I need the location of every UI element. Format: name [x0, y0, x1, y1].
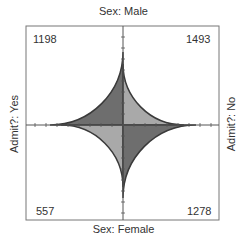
label-admit-no: Admit?: No — [225, 74, 237, 174]
label-sex-female: Sex: Female — [0, 223, 247, 235]
quadrant-bottom-left — [61, 125, 123, 187]
quadrant-top-left — [50, 52, 123, 125]
quadrant-top-right — [123, 64, 184, 125]
count-top-right: 1493 — [186, 33, 210, 45]
count-bottom-right: 1278 — [187, 205, 211, 217]
count-top-left: 1198 — [33, 33, 57, 45]
count-bottom-left: 557 — [36, 205, 54, 217]
label-admit-yes: Admit?: Yes — [8, 74, 20, 174]
label-sex-male: Sex: Male — [0, 5, 247, 17]
quadrant-bottom-right — [123, 125, 196, 198]
